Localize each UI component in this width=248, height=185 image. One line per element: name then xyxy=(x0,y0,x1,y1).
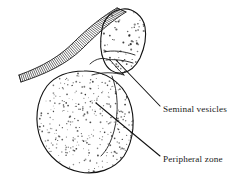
hatch-strokes xyxy=(19,8,126,82)
leader-lines xyxy=(96,60,160,156)
leader-seminal-vesicles xyxy=(116,60,160,106)
hatched-wall-band xyxy=(19,8,126,82)
label-peripheral-zone: Peripheral zone xyxy=(163,154,223,164)
seminal-vesicle xyxy=(100,9,145,74)
anatomical-diagram: Seminal vesicles Peripheral zone xyxy=(0,0,248,185)
label-seminal-vesicles: Seminal vesicles xyxy=(163,104,227,114)
